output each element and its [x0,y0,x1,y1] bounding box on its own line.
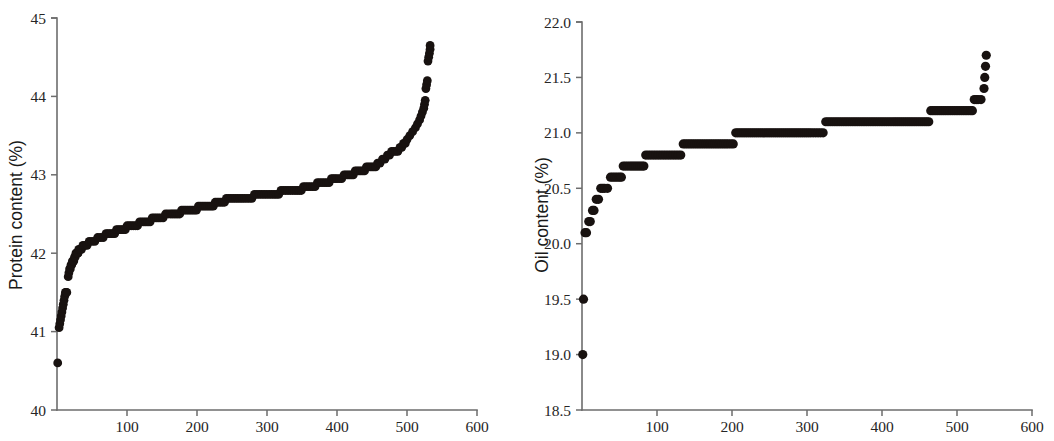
data-point [579,295,588,304]
data-point [976,95,985,104]
x-tick-label: 600 [465,418,489,435]
data-point [594,195,603,204]
protein-y-axis-title: Protein content (%) [6,140,26,290]
data-point [981,62,990,71]
x-tick-label: 600 [1020,418,1044,435]
data-point [617,173,626,182]
data-point [819,128,828,137]
data-point [729,139,738,148]
oil-data-points [578,51,991,360]
y-tick-label: 19.5 [544,291,571,308]
data-point [423,76,432,85]
x-tick-label: 400 [325,418,349,435]
x-tick-label: 200 [720,418,744,435]
data-point [639,162,648,171]
data-point [982,51,991,60]
x-tick-label: 400 [870,418,894,435]
x-tick-label: 100 [645,418,669,435]
data-point [980,73,989,82]
y-tick-label: 43 [31,166,47,183]
data-point [924,117,933,126]
data-point [676,150,685,159]
x-tick-label: 300 [255,418,279,435]
y-tick-label: 44 [31,88,47,105]
x-tick-label: 500 [945,418,969,435]
y-tick-label: 41 [31,323,47,340]
data-point [62,288,71,297]
data-point [586,217,595,226]
protein-plot-svg: 404142434445100200300400500600 Protein c… [0,0,524,441]
data-point [603,184,612,193]
y-tick-label: 22.0 [544,14,571,31]
chart-panel-protein: 404142434445100200300400500600 Protein c… [0,0,524,441]
oil-plot-svg: 18.519.019.520.020.521.021.522.010020030… [524,0,1054,441]
y-tick-label: 21.0 [544,124,571,141]
protein-axes: 404142434445100200300400500600 [31,10,489,436]
x-tick-label: 100 [115,418,139,435]
y-tick-label: 21.5 [544,69,571,86]
data-point [979,84,988,93]
oil-axes: 18.519.019.520.020.521.021.522.010020030… [544,14,1044,436]
data-point [968,106,977,115]
y-tick-label: 19.0 [544,346,571,363]
oil-y-axis-title: Oil content (%) [532,157,552,273]
data-point [578,350,587,359]
data-point [53,359,62,368]
x-tick-label: 300 [795,418,819,435]
y-tick-label: 40 [31,402,47,419]
y-tick-label: 18.5 [544,402,571,419]
data-point [589,206,598,215]
chart-panel-oil: 18.519.019.520.020.521.021.522.010020030… [524,0,1054,441]
data-point [426,41,435,50]
data-point [582,228,591,237]
y-tick-label: 42 [31,245,47,262]
x-tick-label: 500 [395,418,419,435]
figure-container: 404142434445100200300400500600 Protein c… [0,0,1054,441]
y-tick-label: 45 [31,10,47,27]
data-point [421,96,430,105]
x-tick-label: 200 [185,418,209,435]
protein-data-points [53,41,434,367]
